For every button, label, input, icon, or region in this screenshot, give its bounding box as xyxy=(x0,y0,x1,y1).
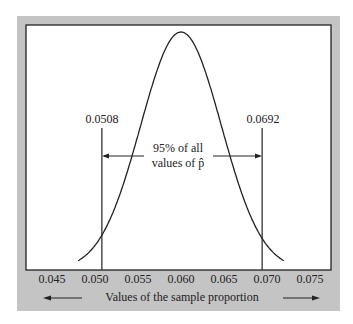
x-axis-caption: Values of the sample proportion xyxy=(105,291,258,304)
annotation-line-1: 95% of all xyxy=(153,142,203,155)
x-tick-label: 0.055 xyxy=(125,273,152,286)
annotation-line-2: values of p̂ xyxy=(152,157,205,170)
x-tick-label: 0.075 xyxy=(297,273,324,286)
x-tick-label: 0.045 xyxy=(39,273,66,286)
x-tick-label: 0.050 xyxy=(82,273,109,286)
x-tick-label: 0.060 xyxy=(168,273,195,286)
x-tick-label: 0.065 xyxy=(211,273,238,286)
lower-bound-label: 0.0508 xyxy=(86,113,119,126)
caption-arrowhead-right-icon xyxy=(312,296,320,301)
caption-arrowhead-left-icon xyxy=(43,296,51,301)
x-tick-label: 0.070 xyxy=(254,273,281,286)
upper-bound-label: 0.0692 xyxy=(247,113,280,126)
